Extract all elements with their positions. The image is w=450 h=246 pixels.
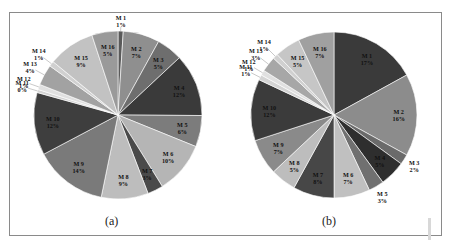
- slice-label: M 14: [257, 38, 271, 45]
- slice-percent: 16%: [393, 115, 405, 122]
- leader-line: [28, 88, 38, 91]
- slice-percent: 12%: [173, 91, 185, 98]
- slice-label: M 5: [177, 121, 187, 128]
- slice-label: M 4: [174, 84, 184, 91]
- slice-percent: 5%: [290, 166, 299, 173]
- slice-percent: 6%: [178, 128, 187, 135]
- pie-chart-b: M 117%M 216%M 32%M 45%M 53%M 67%M 78%M 8…: [239, 32, 419, 204]
- slice-percent: 3%: [378, 197, 387, 204]
- slice-percent: 12%: [47, 122, 59, 129]
- slice-label: M 7: [313, 171, 323, 178]
- slice-percent: 7%: [343, 178, 352, 185]
- slice-percent: 5%: [375, 161, 384, 168]
- slice-label: M 9: [273, 141, 283, 148]
- slice-percent: 14%: [73, 167, 85, 174]
- slice-label: M 2: [393, 108, 403, 115]
- slice-percent: 7%: [132, 52, 141, 59]
- pie-charts: M 11%M 27%M 35%M 412%M 56%M 610%M 73%M 8…: [0, 0, 450, 246]
- slice-label: M 1: [116, 14, 126, 21]
- slice-percent: 3%: [251, 54, 260, 61]
- slice-label: M 16: [313, 45, 327, 52]
- slice-label: M 9: [73, 160, 83, 167]
- pie-chart-a: M 11%M 27%M 35%M 412%M 56%M 610%M 73%M 8…: [16, 14, 202, 199]
- leader-line: [29, 84, 38, 87]
- leader-line: [35, 70, 44, 75]
- caption-b: (b): [322, 214, 336, 229]
- slice-label: M 2: [131, 45, 141, 52]
- slice-label: M 12: [17, 75, 31, 82]
- caption-a: (a): [105, 214, 118, 229]
- slice-label: M 5: [377, 190, 387, 197]
- slice-label: M 8: [118, 173, 128, 180]
- slice-label: M 4: [375, 154, 385, 161]
- slice-label: M 13: [23, 60, 37, 67]
- slice-label: M 10: [263, 104, 277, 111]
- slice-percent: 4%: [26, 67, 35, 74]
- slice-percent: 1%: [116, 21, 125, 28]
- slice-percent: 1%: [259, 45, 268, 52]
- slice-percent: 1%: [19, 82, 28, 89]
- scan-artifact: [428, 218, 431, 240]
- slice-label: M 1: [362, 52, 372, 59]
- leader-line: [251, 73, 260, 78]
- slice-percent: 12%: [263, 111, 275, 118]
- slice-percent: 10%: [162, 157, 174, 164]
- slice-percent: 1%: [34, 54, 43, 61]
- slice-label: M 3: [409, 159, 419, 166]
- slice-label: M 3: [153, 56, 163, 63]
- slice-percent: 2%: [410, 166, 419, 173]
- slice-percent: 8%: [313, 178, 322, 185]
- slice-label: M 7: [142, 167, 152, 174]
- slice-label: M 15: [74, 54, 88, 61]
- slice-percent: 3%: [142, 174, 151, 181]
- slice-percent: 5%: [154, 63, 163, 70]
- slice-label: M 8: [289, 159, 299, 166]
- leader-line: [44, 58, 52, 64]
- leader-line: [268, 49, 275, 56]
- slice-percent: 5%: [293, 61, 302, 68]
- slice-percent: 17%: [361, 59, 373, 66]
- slice-label: M 6: [343, 171, 353, 178]
- slice-label: M 14: [32, 47, 46, 54]
- slice-percent: 9%: [76, 61, 85, 68]
- slice-label: M 6: [163, 150, 173, 157]
- slice-percent: 7%: [274, 148, 283, 155]
- leader-line: [254, 68, 263, 73]
- leader-line: [261, 58, 269, 64]
- slice-percent: 9%: [119, 180, 128, 187]
- slice-label: M 16: [101, 43, 115, 50]
- slice-label: M 15: [291, 54, 305, 61]
- slice-label: M 10: [46, 115, 60, 122]
- slice-percent: 1%: [244, 65, 253, 72]
- slice-percent: 5%: [103, 50, 112, 57]
- slice-percent: 7%: [315, 52, 324, 59]
